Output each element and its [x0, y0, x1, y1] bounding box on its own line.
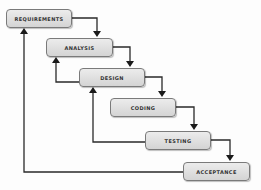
- waterfall-diagram: REQUIREMENTS ANALYSIS DESIGN CODING TEST…: [0, 0, 261, 190]
- stage-label: ANALYSIS: [64, 45, 94, 51]
- arrow-analysis-to-design: [113, 47, 130, 63]
- arrow-design-to-analysis: [56, 63, 79, 82]
- stage-analysis: ANALYSIS: [46, 38, 113, 57]
- stage-label: TESTING: [165, 138, 192, 144]
- stage-testing: TESTING: [145, 131, 211, 150]
- stage-label: DESIGN: [100, 75, 124, 81]
- arrow-testing-to-acceptance: [211, 140, 230, 157]
- stage-label: CODING: [131, 105, 156, 111]
- arrow-requirements-to-analysis: [72, 18, 97, 33]
- arrow-coding-to-testing: [176, 107, 194, 126]
- stage-acceptance: ACCEPTANCE: [183, 162, 250, 181]
- stage-coding: CODING: [110, 98, 176, 117]
- arrow-design-to-coding: [145, 77, 162, 93]
- stage-requirements: REQUIREMENTS: [6, 9, 72, 28]
- stage-design: DESIGN: [79, 68, 145, 87]
- stage-label: REQUIREMENTS: [14, 16, 63, 22]
- stage-label: ACCEPTANCE: [196, 169, 236, 175]
